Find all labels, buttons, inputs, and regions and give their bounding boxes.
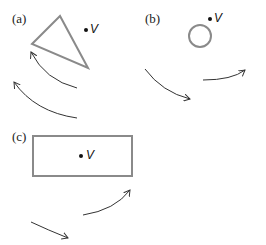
point-label-v: V [90, 22, 98, 36]
circle-shape [189, 25, 211, 47]
point-label-v: V [86, 148, 94, 162]
triangle-shape [32, 16, 88, 68]
panel-label-a: (a) [12, 11, 26, 27]
panel-label-c: (c) [12, 129, 26, 145]
point-label-v: V [214, 11, 222, 25]
rotation-arrow [145, 69, 190, 99]
panel-c [31, 136, 132, 238]
rotation-arrow [203, 70, 245, 80]
point-v [208, 17, 212, 21]
rotation-arrow [83, 190, 130, 215]
panel-b [145, 17, 245, 99]
rotation-arrow [14, 82, 77, 118]
rotation-arrow [31, 222, 68, 238]
panel-label-b: (b) [145, 11, 160, 27]
panel-a [14, 16, 88, 118]
rotation-diagram [0, 0, 266, 245]
point-v [79, 154, 83, 158]
rotation-arrow [31, 52, 77, 88]
point-v [84, 28, 88, 32]
